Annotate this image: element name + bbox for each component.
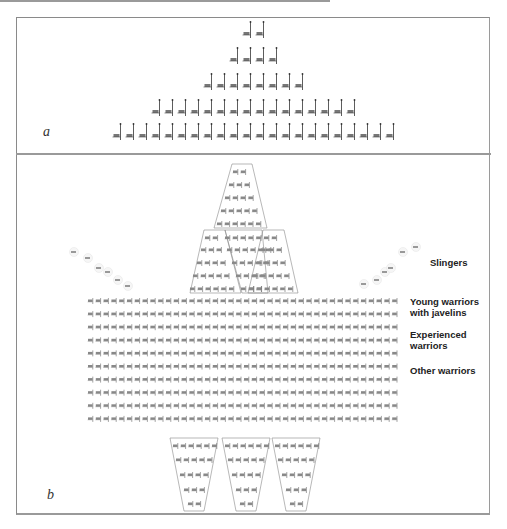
warrior-icon [189,377,195,383]
warrior-icon [181,337,187,343]
warrior-spear-icon [243,73,252,90]
warrior-icon [150,324,156,330]
warrior-icon [361,403,367,409]
warrior-icon [306,337,312,343]
warrior-icon [166,337,172,343]
warrior-icon [103,390,109,396]
warrior-spear-icon [204,123,213,140]
warrior-icon [322,350,328,356]
warrior-icon [142,324,148,330]
warrior-icon [119,416,125,422]
warrior-spear-icon [269,123,278,140]
warrior-icon [290,390,296,396]
warrior-icon [251,390,256,396]
warrior-icon [166,390,172,396]
warrior-icon [392,311,398,317]
warrior-icon [259,311,265,317]
warrior-icon [376,337,382,343]
warrior-icon [267,403,273,409]
warrior-icon [306,364,312,370]
warrior-icon [236,311,242,317]
warrior-icon [103,337,109,343]
warrior-icon [197,311,203,317]
warrior-icon [298,377,304,383]
warrior-icon [368,403,374,409]
warrior-icon [306,350,312,356]
warrior-icon [306,416,312,422]
warrior-icon [142,350,148,356]
warrior-icon [329,390,335,396]
warrior-icon [314,324,320,330]
warrior-icon [267,311,273,317]
warrior-spear-icon [282,73,291,90]
warrior-icon [283,337,289,343]
warrior-icon [251,487,257,493]
warrior-icon [290,364,296,370]
warrior-icon [361,298,367,304]
warrior-icon [189,416,195,422]
warrior-icon [376,350,382,356]
unit-outline [214,164,267,228]
warrior-icon [368,416,374,422]
warrior-icon [236,403,242,409]
warrior-icon [220,311,226,317]
warrior-icon [253,273,259,279]
warrior-icon [314,403,320,409]
warrior-icon [280,260,286,266]
warrior-icon [268,273,274,279]
warrior-icon [180,472,186,478]
warrior-icon [275,298,281,304]
warrior-icon [225,235,231,241]
warrior-icon [322,298,328,304]
warrior-spear-icon [295,99,304,116]
warrior-icon [236,208,242,214]
warrior-icon [290,501,296,507]
warrior-icon [298,337,304,343]
warrior-icon [95,403,101,409]
warrior-spear-icon [308,123,317,140]
warrior-icon [384,403,390,409]
warrior-icon [189,298,195,304]
warrior-icon [236,298,242,304]
warrior-icon [309,457,315,463]
warrior-icon [220,298,226,304]
warrior-icon [392,390,398,396]
warrior-icon [337,324,343,330]
warrior-icon [244,182,250,188]
warrior-icon [337,298,343,304]
warrior-icon [284,273,290,279]
warrior-icon [197,350,203,356]
warrior-icon [376,377,382,383]
warrior-icon [103,350,109,356]
warrior-icon [275,403,281,409]
warrior-icon [376,324,382,330]
warrior-icon [314,364,320,370]
warrior-icon [329,416,335,422]
warrior-icon [392,403,398,409]
warrior-spear-icon [243,47,252,64]
warrior-icon [267,416,273,422]
warrior-icon [111,377,117,383]
warrior-icon [127,364,133,370]
warrior-icon [127,403,133,409]
warrior-spear-icon [334,123,343,140]
warrior-icon [204,443,210,449]
warrior-icon [205,390,211,396]
warrior-icon [244,298,250,304]
warrior-icon [111,350,117,356]
warrior-icon [251,324,256,330]
warrior-icon [95,324,101,330]
warrior-icon [259,416,265,422]
warrior-icon [250,247,256,253]
warrior-icon [158,298,164,304]
warrior-icon [259,337,265,343]
warrior-spear-icon [230,47,239,64]
warrior-icon [134,364,140,370]
warrior-spear-icon [230,99,239,116]
warrior-icon [259,403,265,409]
warrior-icon [220,416,226,422]
warrior-spear-icon [217,99,226,116]
warrior-icon [142,298,148,304]
warrior-icon [384,350,390,356]
unit-outline [222,438,270,511]
